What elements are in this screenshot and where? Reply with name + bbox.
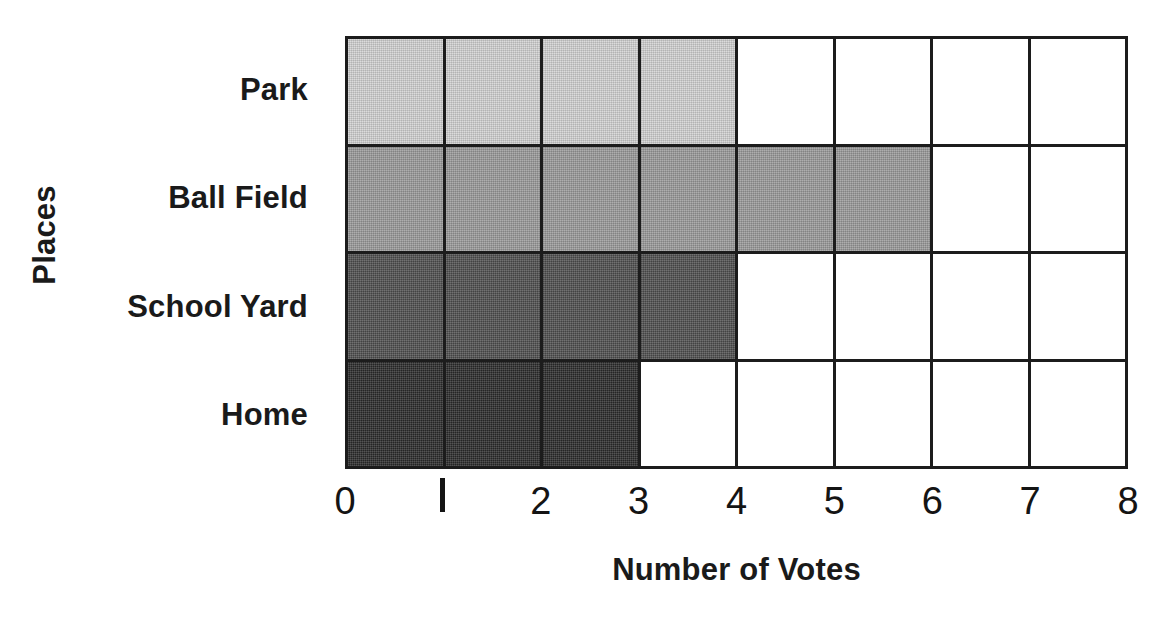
category-label-school-yard: School Yard (90, 253, 330, 361)
bar-row-home (348, 359, 1125, 466)
bar-row-school-yard (348, 253, 1125, 360)
category-label-column: Park Ball Field School Yard Home (90, 36, 330, 469)
category-label-ball-field: Ball Field (90, 144, 330, 252)
x-axis-tick-labels: 012345678 (345, 478, 1128, 530)
bar-chart: Places Park Ball Field School Yard Home … (0, 0, 1175, 627)
x-tick-label-3: 3 (609, 478, 669, 524)
bar-park (348, 39, 737, 146)
category-label-park: Park (90, 36, 330, 144)
x-tick-label-7: 7 (1000, 478, 1060, 524)
x-tick-label-6: 6 (902, 478, 962, 524)
bar-row-ball-field (348, 146, 1125, 253)
x-tick-label-4: 4 (707, 478, 767, 524)
x-tick-label-0: 0 (315, 478, 375, 524)
bar-school-yard (348, 253, 737, 360)
y-axis-title: Places (0, 0, 90, 470)
plot-area (345, 36, 1128, 469)
x-tick-label-1: 1 (413, 478, 473, 531)
bars-layer (348, 39, 1125, 466)
category-label-home: Home (90, 361, 330, 469)
x-tick-label-5: 5 (804, 478, 864, 524)
bar-home (348, 359, 639, 466)
x-axis-title: Number of Votes (345, 552, 1128, 588)
bar-ball-field (348, 146, 931, 253)
bar-row-park (348, 39, 1125, 146)
y-axis-title-text: Places (27, 185, 63, 284)
x-tick-label-2: 2 (511, 478, 571, 524)
x-tick-label-8: 8 (1098, 478, 1158, 524)
